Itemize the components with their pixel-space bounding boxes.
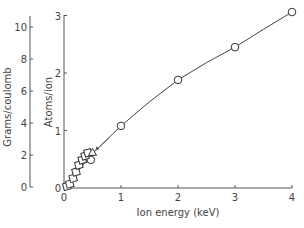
circle-marker <box>288 8 296 16</box>
x-tick-label: 1 <box>118 192 124 203</box>
x-tick-label: 3 <box>232 192 238 203</box>
arrow-annotation <box>96 138 110 151</box>
chart: 0246810 0123 01234 Ion energy (keV) Gram… <box>0 0 304 228</box>
circle-marker <box>174 76 182 84</box>
grams-per-coulomb-axis: 0246810 <box>14 16 33 193</box>
ion-energy-axis: 01234 <box>61 185 295 203</box>
right-tick-label: 3 <box>55 11 61 22</box>
left-axis-label: Grams/coulomb <box>2 67 13 146</box>
x-tick-label: 4 <box>289 192 295 203</box>
x-tick-label: 2 <box>175 192 181 203</box>
right-tick-label: 1 <box>55 126 61 137</box>
fit-line <box>64 12 292 188</box>
atoms-per-ion-axis: 0123 <box>55 11 67 195</box>
circle-marker <box>231 43 239 51</box>
left-tick-label: 0 <box>21 182 27 193</box>
left-tick-label: 8 <box>21 54 27 65</box>
right-tick-label: 2 <box>55 68 61 79</box>
circle-marker <box>117 122 125 130</box>
left-tick-label: 6 <box>21 86 27 97</box>
x-tick-label: 0 <box>61 192 67 203</box>
left-tick-label: 10 <box>14 22 27 33</box>
fit-curve <box>64 12 292 188</box>
left-tick-label: 4 <box>21 118 27 129</box>
x-axis-label: Ion energy (keV) <box>137 207 220 218</box>
right-axis-label: Atoms/ion <box>43 77 54 127</box>
data-markers <box>63 8 296 190</box>
left-tick-label: 2 <box>21 150 27 161</box>
